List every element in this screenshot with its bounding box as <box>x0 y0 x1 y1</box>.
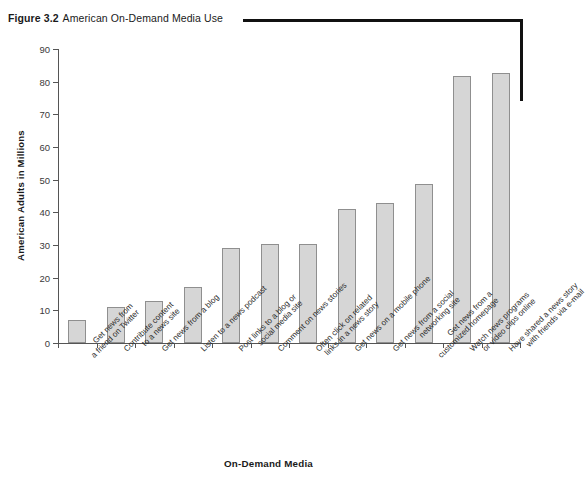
y-axis-tick-label: 70 <box>39 109 50 120</box>
page-title: American On-Demand Media Use <box>63 12 223 24</box>
figure-title-block: Figure 3.2American On-Demand Media Use <box>8 12 223 24</box>
y-axis-tick-label: 10 <box>39 305 50 316</box>
y-axis-tick-label: 50 <box>39 174 50 185</box>
y-axis-tick <box>53 212 58 213</box>
decorative-rule-vertical <box>520 19 523 101</box>
figure-number: Figure 3.2 <box>8 12 59 24</box>
y-axis-tick <box>53 147 58 148</box>
y-axis-tick <box>53 114 58 115</box>
y-axis-tick <box>53 245 58 246</box>
y-axis-tick <box>53 278 58 279</box>
y-axis-tick <box>53 49 58 50</box>
y-axis-tick-label: 60 <box>39 142 50 153</box>
y-axis-tick-labels: 0102030405060708090 <box>0 49 50 343</box>
y-axis-tick-label: 0 <box>45 338 50 349</box>
decorative-rule-horizontal <box>243 19 523 22</box>
y-axis-tick <box>53 180 58 181</box>
y-axis-tick <box>53 82 58 83</box>
x-axis-category-labels: Get news froma friend on TwitterContribu… <box>58 345 528 450</box>
y-axis-tick <box>53 310 58 311</box>
y-axis-tick-label: 90 <box>39 44 50 55</box>
y-axis-tick-label: 40 <box>39 207 50 218</box>
y-axis-tick-label: 30 <box>39 240 50 251</box>
y-axis-tick-label: 80 <box>39 76 50 87</box>
x-axis-title: On-Demand Media <box>0 458 537 469</box>
y-axis-tick-label: 20 <box>39 272 50 283</box>
bar <box>68 320 86 343</box>
